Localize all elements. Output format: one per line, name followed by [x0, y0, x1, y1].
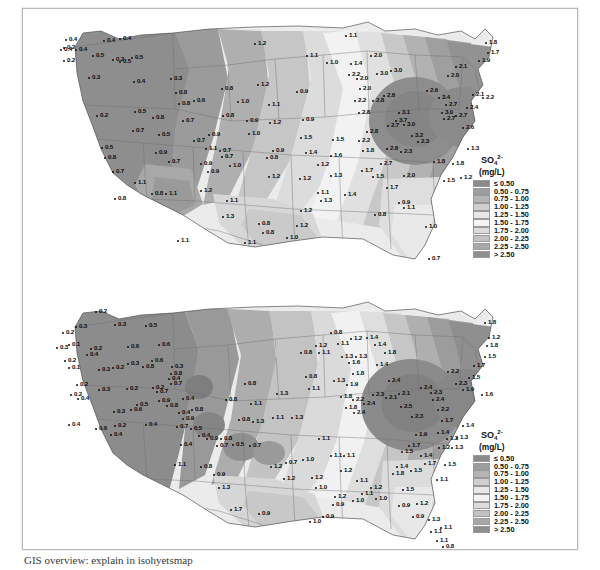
- data-point-value: 1.3: [455, 443, 463, 450]
- data-point-value: 1.2: [354, 334, 362, 341]
- data-point-value: 1.3: [432, 515, 440, 522]
- legend-row: > 2.50: [473, 250, 529, 258]
- data-point-value: 1.8: [488, 318, 496, 325]
- data-point-value: 0.9: [210, 434, 218, 441]
- data-point-value: 0.4: [81, 394, 89, 401]
- data-point-value: 0.7: [253, 441, 261, 448]
- data-point-value: 0.9: [262, 509, 270, 516]
- data-point-value: 0.2: [66, 328, 74, 335]
- data-point-value: 1.5: [448, 460, 456, 467]
- data-point-value: 0.4: [72, 420, 80, 427]
- data-point-value: 1.1: [322, 348, 330, 355]
- data-point-value: 1.2: [287, 474, 295, 481]
- data-point-value: 2.4: [367, 399, 375, 406]
- data-point-value: 2.2: [441, 405, 449, 412]
- data-point-value: 1.8: [344, 392, 352, 399]
- data-point-value: 0.3: [102, 365, 110, 372]
- data-point-value: 0.8: [146, 362, 154, 369]
- data-point-value: 2.5: [404, 402, 412, 409]
- data-point-value: 1.4: [466, 421, 474, 428]
- data-point-value: 2.3: [415, 412, 423, 419]
- data-point-value: 1.8: [356, 369, 364, 376]
- legend-row: > 2.50: [473, 525, 529, 533]
- data-point-value: 0.9: [186, 414, 194, 421]
- data-point-value: 1.0: [356, 496, 364, 503]
- data-point-value: 1.6: [485, 390, 493, 397]
- legend-swatch: [473, 203, 490, 210]
- data-point-value: 0.1: [72, 340, 80, 347]
- data-point-value: 1.3: [359, 352, 367, 359]
- data-point-value: 0.7: [160, 387, 168, 394]
- legend-swatch: [473, 235, 490, 242]
- data-point-value: 1.8: [490, 341, 498, 348]
- data-point-value: 2.4: [392, 376, 400, 383]
- legend-label: > 2.50: [494, 251, 515, 258]
- data-point-value: 2.4: [357, 408, 365, 415]
- data-point-value: 1.9: [466, 385, 474, 392]
- data-point-value: 1.0: [306, 455, 314, 462]
- data-point-value: 0.8: [242, 415, 250, 422]
- data-point-value: 0.8: [304, 348, 312, 355]
- data-point-value: 0.9: [336, 500, 344, 507]
- data-point-value: 2.2: [356, 395, 364, 402]
- data-point-value: 1.1: [254, 399, 262, 406]
- data-point-value: 1.2: [315, 473, 323, 480]
- data-point-value: 1.6: [352, 358, 360, 365]
- data-point-value: 1.2: [338, 492, 346, 499]
- data-point-value: 0.4: [186, 394, 194, 401]
- legend-swatch: [473, 463, 490, 470]
- data-point-value: 1.8: [396, 469, 404, 476]
- data-point-value: 0.3: [60, 343, 68, 350]
- data-point-value: 0.8: [446, 542, 454, 549]
- data-point-value: 1.0: [379, 494, 387, 501]
- data-point-value: 1.1: [347, 451, 355, 458]
- legend-swatch: [473, 526, 490, 533]
- data-point-value: 1.2: [374, 483, 382, 490]
- data-point-value: 1.1: [440, 475, 448, 482]
- legend-swatch: [473, 188, 490, 195]
- data-point-value: 0.2: [130, 384, 138, 391]
- data-point-value: 1.4: [424, 451, 432, 458]
- legend-swatch: [473, 510, 490, 517]
- data-point-value: 0.2: [116, 363, 124, 370]
- data-point-value: 0.3: [102, 385, 110, 392]
- data-point-value: 0.3: [117, 407, 125, 414]
- data-point-value: 0.9: [416, 512, 424, 519]
- data-point-value: 1.3: [256, 417, 264, 424]
- data-point-value: 1.2: [442, 443, 450, 450]
- data-point-value: 0.3: [118, 320, 126, 327]
- data-point-value: 0.3: [79, 322, 87, 329]
- data-point-value: 1.2: [274, 462, 282, 469]
- data-point-value: 0.9: [326, 512, 334, 519]
- legend-swatch: [473, 211, 490, 218]
- data-point-value: 2.3: [376, 390, 384, 397]
- data-point-value: 0.8: [334, 328, 342, 335]
- legend-label: ≤ 0.50: [494, 455, 514, 462]
- data-point-value: 0.8: [204, 462, 212, 469]
- data-point-value: 1.7: [234, 505, 242, 512]
- legend-swatch: [473, 478, 490, 485]
- data-point-value: 0.5: [194, 424, 202, 431]
- data-point-value: 1.2: [492, 333, 500, 340]
- figure-container: 0.20.40.40.40.40.40.20.50.50.20.50.30.40…: [0, 0, 600, 570]
- data-point-value: 1.3: [222, 483, 230, 490]
- data-point-value: 1.8: [349, 403, 357, 410]
- legend-rows-lower: ≤ 0.500.50 - 0.750.75 - 1.001.00 - 1.251…: [473, 454, 529, 533]
- data-point-value: 0.3: [175, 362, 183, 369]
- data-point-value: 0.8: [309, 372, 317, 379]
- data-point-value: 2.4: [436, 395, 444, 402]
- data-point-value: 1.7: [412, 441, 420, 448]
- data-point-value: 2.3: [434, 388, 442, 395]
- data-point-value: 1.5: [406, 485, 414, 492]
- legend-swatch: [473, 470, 490, 477]
- data-point-value: 0.3: [131, 359, 139, 366]
- data-point-value: 1.1: [360, 476, 368, 483]
- legend-label: > 2.50: [494, 526, 515, 533]
- data-point-value: 0.6: [162, 340, 170, 347]
- legend-swatch: [473, 518, 490, 525]
- data-point-value: 1.2: [420, 499, 428, 506]
- data-point-value: 0.4: [149, 420, 157, 427]
- data-point-value: 1.1: [322, 434, 330, 441]
- data-point-value: 0.1: [72, 363, 80, 370]
- data-point-value: 1.4: [378, 340, 386, 347]
